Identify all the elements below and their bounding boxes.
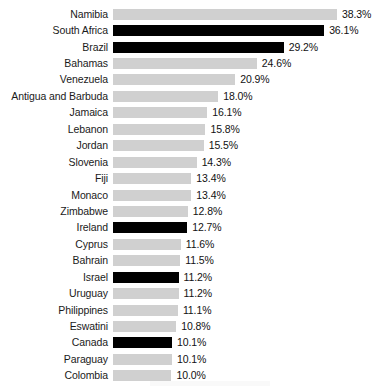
bar — [113, 222, 187, 233]
value-label: 24.6% — [257, 58, 291, 69]
value-label: 16.1% — [207, 107, 241, 118]
category-label: Brazil — [0, 42, 108, 53]
category-label: Lebanon — [0, 124, 108, 135]
bar-row: Monaco13.4% — [0, 187, 391, 203]
category-label: Zimbabwe — [0, 206, 108, 217]
value-label: 18.0% — [218, 91, 252, 102]
bar-row: Ireland12.7% — [0, 220, 391, 236]
category-label: Colombia — [0, 370, 108, 381]
bar-zone: 29.2% — [108, 39, 391, 55]
category-label: Uruguay — [0, 288, 108, 299]
bar-row: Philippines11.1% — [0, 302, 391, 318]
bar-zone: 11.5% — [108, 253, 391, 269]
bar-zone: 20.9% — [108, 72, 391, 88]
bar-row: Uruguay11.2% — [0, 285, 391, 301]
bar — [113, 173, 191, 184]
category-label: Bahrain — [0, 255, 108, 266]
category-label: South Africa — [0, 25, 108, 36]
bar-row: Bahamas24.6% — [0, 55, 391, 71]
bar — [113, 321, 176, 332]
bar-zone: 36.1% — [108, 22, 391, 38]
bar — [113, 190, 191, 201]
bar-zone: 11.2% — [108, 285, 391, 301]
bar-zone: 10.8% — [108, 318, 391, 334]
category-label: Paraguay — [0, 354, 108, 365]
value-label: 12.8% — [188, 206, 222, 217]
bar-zone: 14.3% — [108, 154, 391, 170]
horizontal-bar-chart: Namibia38.3%South Africa36.1%Brazil29.2%… — [0, 0, 391, 392]
value-label: 10.0% — [171, 370, 205, 381]
bar-row: Namibia38.3% — [0, 6, 391, 22]
value-label: 13.4% — [191, 173, 225, 184]
value-label: 20.9% — [235, 74, 269, 85]
bar — [113, 42, 284, 53]
bar-zone: 18.0% — [108, 88, 391, 104]
bar-zone: 11.6% — [108, 236, 391, 252]
bar-row: Zimbabwe12.8% — [0, 203, 391, 219]
category-label: Eswatini — [0, 321, 108, 332]
bar-zone: 11.1% — [108, 302, 391, 318]
bar — [113, 305, 178, 316]
bar-row: Israel11.2% — [0, 269, 391, 285]
bar-row: Bahrain11.5% — [0, 253, 391, 269]
bar — [113, 370, 171, 381]
value-label: 10.8% — [176, 321, 210, 332]
bar — [113, 337, 172, 348]
value-label: 15.8% — [205, 124, 239, 135]
bar-row: Brazil29.2% — [0, 39, 391, 55]
bar-row: Fiji13.4% — [0, 170, 391, 186]
bar-row: Lebanon15.8% — [0, 121, 391, 137]
bar-zone: 13.4% — [108, 187, 391, 203]
bar-row: Antigua and Barbuda18.0% — [0, 88, 391, 104]
category-label: Cyprus — [0, 239, 108, 250]
bar — [113, 239, 181, 250]
value-label: 10.1% — [172, 337, 206, 348]
bar — [113, 140, 204, 151]
value-label: 11.2% — [179, 272, 213, 283]
category-label: Jamaica — [0, 107, 108, 118]
bar-zone: 13.4% — [108, 170, 391, 186]
bar-zone: 10.1% — [108, 351, 391, 367]
value-label: 10.1% — [172, 354, 206, 365]
bar-row: Venezuela20.9% — [0, 72, 391, 88]
bar-row: Canada10.1% — [0, 335, 391, 351]
bar — [113, 91, 218, 102]
category-label: Slovenia — [0, 157, 108, 168]
bar — [113, 58, 257, 69]
bar-row: Jordan15.5% — [0, 138, 391, 154]
value-label: 14.3% — [197, 157, 231, 168]
category-label: Israel — [0, 272, 108, 283]
bar — [113, 272, 179, 283]
category-label: Canada — [0, 337, 108, 348]
bar — [113, 25, 324, 36]
bar — [113, 255, 180, 266]
bar-zone: 12.7% — [108, 220, 391, 236]
bar — [113, 107, 207, 118]
category-label: Antigua and Barbuda — [0, 91, 108, 102]
bar-zone: 12.8% — [108, 203, 391, 219]
category-label: Namibia — [0, 9, 108, 20]
bar-zone: 16.1% — [108, 105, 391, 121]
bar-row: Slovenia14.3% — [0, 154, 391, 170]
bar — [113, 288, 179, 299]
value-label: 11.5% — [180, 255, 214, 266]
value-label: 36.1% — [324, 25, 358, 36]
value-label: 38.3% — [337, 9, 371, 20]
bar-zone: 15.8% — [108, 121, 391, 137]
bar-row: Cyprus11.6% — [0, 236, 391, 252]
value-label: 11.2% — [179, 288, 213, 299]
bar-row: Paraguay10.1% — [0, 351, 391, 367]
value-label: 12.7% — [187, 222, 221, 233]
bar — [113, 354, 172, 365]
bar — [113, 74, 235, 85]
value-label: 13.4% — [191, 190, 225, 201]
bar-zone: 10.1% — [108, 335, 391, 351]
bar-row: Jamaica16.1% — [0, 105, 391, 121]
category-label: Fiji — [0, 173, 108, 184]
value-label: 11.6% — [181, 239, 215, 250]
bar — [113, 157, 197, 168]
bar — [113, 206, 188, 217]
category-label: Venezuela — [0, 74, 108, 85]
bar — [113, 124, 205, 135]
category-label: Bahamas — [0, 58, 108, 69]
